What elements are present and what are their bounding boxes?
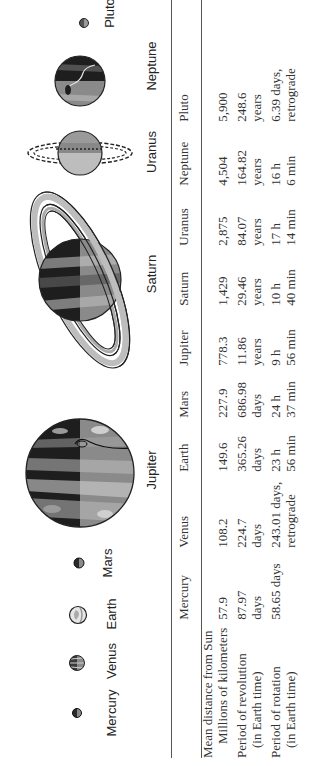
- header-uranus: Uranus: [170, 190, 198, 250]
- header-jupiter: Jupiter: [170, 310, 198, 370]
- header-saturn: Saturn: [170, 250, 198, 310]
- label-saturn: Saturn: [144, 255, 159, 293]
- mercury-icon: [73, 709, 82, 718]
- saturn-icon: [10, 179, 149, 380]
- header-mars: Mars: [170, 370, 198, 422]
- header-neptune: Neptune: [170, 126, 198, 190]
- solar-system-drawing: [0, 0, 170, 766]
- cell: 9 h56 min: [266, 310, 300, 370]
- table-row-distance: Mean distance from Sun Millions of kilom…: [198, 58, 232, 758]
- jupiter-icon: [26, 419, 134, 527]
- cell: 365.26days: [232, 422, 266, 476]
- row-label-line1: Period of rotation: [268, 628, 283, 758]
- cell: 243.01 days,retrograde: [266, 476, 300, 552]
- cell: 227.9: [198, 370, 232, 422]
- row-label-line2: (in Earth time): [249, 628, 264, 758]
- cell: 87.97days: [232, 552, 266, 624]
- table-header-row: Mercury Venus Earth Mars Jupiter Saturn …: [170, 58, 198, 758]
- cell: 57.9: [198, 552, 232, 624]
- header-blank: [170, 624, 198, 758]
- row-label-distance: Mean distance from Sun Millions of kilom…: [198, 624, 232, 758]
- label-jupiter: Jupiter: [144, 450, 159, 489]
- venus-icon: [70, 656, 85, 671]
- cell: 686.98days: [232, 370, 266, 422]
- cell: 23 h56 min: [266, 422, 300, 476]
- row-label-rotation: Period of rotation (in Earth time): [266, 624, 300, 758]
- cell: 1,429: [198, 250, 232, 310]
- label-pluto: Pluto: [102, 0, 117, 28]
- cell: 84.07years: [232, 190, 266, 250]
- cell: 10 h40 min: [266, 250, 300, 310]
- cell: 778.3: [198, 310, 232, 370]
- label-uranus: Uranus: [144, 131, 159, 173]
- row-label-line1: Period of revolution: [234, 628, 249, 758]
- cell: 11.86years: [232, 310, 266, 370]
- cell: 24 h37 min: [266, 370, 300, 422]
- table-row-revolution: Period of revolution (in Earth time) 87.…: [232, 58, 266, 758]
- uranus-icon: [28, 131, 132, 175]
- cell: 224.7days: [232, 476, 266, 552]
- cell: 248.6years: [232, 58, 266, 126]
- cell: 6.39 days,retrograde: [266, 58, 300, 126]
- cell: 58.65 days: [266, 552, 300, 624]
- earth-icon: [70, 607, 87, 624]
- table-row-rotation: Period of rotation (in Earth time) 58.65…: [266, 58, 300, 758]
- mars-icon: [74, 558, 84, 568]
- label-mercury: Mercury: [104, 690, 119, 737]
- cell: 16 h6 min: [266, 126, 300, 190]
- label-venus: Venus: [104, 643, 119, 679]
- cell: 4,504: [198, 126, 232, 190]
- header-venus: Venus: [170, 476, 198, 552]
- rotated-page: Mercury Venus Earth Mars Jupiter Saturn …: [0, 0, 326, 766]
- cell: 17 h14 min: [266, 190, 300, 250]
- header-pluto: Pluto: [170, 58, 198, 126]
- row-label-revolution: Period of revolution (in Earth time): [232, 624, 266, 758]
- header-earth: Earth: [170, 422, 198, 476]
- neptune-icon: [55, 56, 105, 106]
- cell: 5,900: [198, 58, 232, 126]
- cell: 164.82years: [232, 126, 266, 190]
- cell: 2,875: [198, 190, 232, 250]
- cell: 149.6: [198, 422, 232, 476]
- planet-data-table: Mercury Venus Earth Mars Jupiter Saturn …: [170, 58, 300, 758]
- label-earth: Earth: [104, 598, 119, 629]
- row-label-line2: (in Earth time): [283, 628, 298, 758]
- label-neptune: Neptune: [144, 41, 159, 90]
- label-mars: Mars: [100, 549, 115, 578]
- row-label-line1: Mean distance from Sun: [200, 628, 215, 758]
- cell: 29.46years: [232, 250, 266, 310]
- pluto-icon: [80, 19, 89, 28]
- header-mercury: Mercury: [170, 552, 198, 624]
- cell: 108.2: [198, 476, 232, 552]
- row-label-line2: Millions of kilometers: [215, 628, 230, 758]
